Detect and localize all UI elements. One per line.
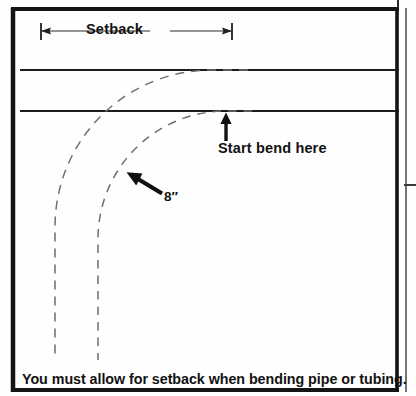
start-bend-label: Start bend here [218, 140, 327, 156]
bend-radius-label: 8″ [164, 189, 178, 204]
page-background [0, 0, 416, 396]
figure-caption: You must allow for setback when bending … [22, 371, 407, 387]
setback-label: Setback [86, 21, 143, 37]
setback-bending-diagram [0, 0, 416, 396]
figure-page: Setback Start bend here 8″ You must allo… [0, 0, 416, 396]
